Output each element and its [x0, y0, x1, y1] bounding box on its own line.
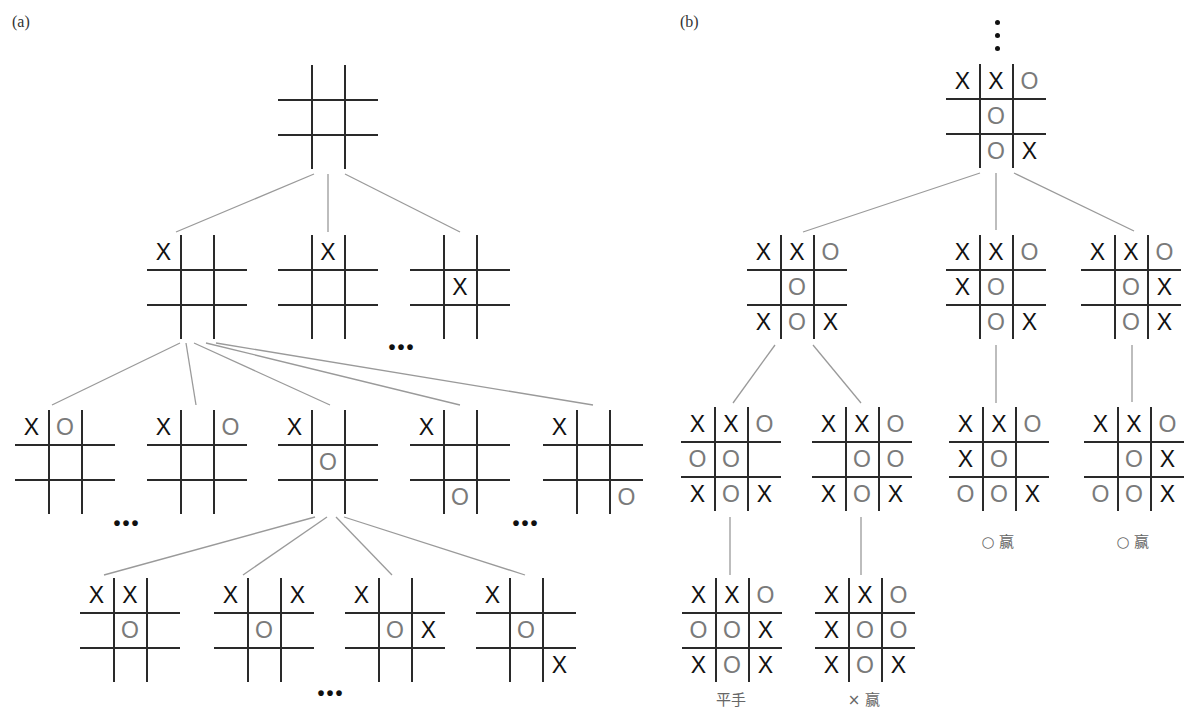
o-mark-icon: O — [980, 134, 1013, 168]
tree-edge — [345, 174, 460, 232]
o-mark-icon: O — [849, 648, 882, 682]
empty-cell — [345, 100, 378, 134]
empty-cell — [477, 305, 510, 339]
x-mark-icon: X — [814, 305, 847, 339]
x-mark-icon: X — [747, 305, 780, 339]
empty-cell — [477, 445, 510, 479]
empty-cell — [281, 613, 314, 647]
x-mark-icon: X — [281, 578, 314, 612]
x-mark-icon: X — [749, 613, 782, 647]
tree-edge — [1014, 173, 1134, 231]
x-mark-icon: X — [1013, 134, 1046, 168]
x-mark-icon: X — [476, 578, 509, 612]
tree-edge — [206, 343, 460, 405]
empty-cell — [214, 445, 247, 479]
tree-edge — [194, 343, 330, 405]
o-mark-icon: O — [781, 305, 814, 339]
tic-tac-toe-board: XO — [410, 410, 510, 514]
o-mark-icon: O — [1148, 235, 1181, 269]
empty-cell — [510, 578, 543, 612]
tic-tac-toe-board: XXOXOOOX — [949, 407, 1049, 511]
empty-cell — [748, 442, 781, 476]
tic-tac-toe-board: XXOOXOX — [1081, 235, 1181, 339]
x-mark-icon: X — [15, 410, 48, 444]
tic-tac-toe-board: XXOXOOX — [946, 235, 1046, 339]
empty-cell — [814, 270, 847, 304]
x-mark-icon: X — [312, 235, 345, 269]
tic-tac-toe-board: XO — [278, 410, 378, 514]
empty-cell — [747, 270, 780, 304]
o-mark-icon: O — [716, 613, 749, 647]
empty-cell — [410, 305, 443, 339]
empty-cell — [312, 100, 345, 134]
tic-tac-toe-board: XXOXOOXOX — [815, 578, 915, 682]
empty-cell — [1081, 305, 1114, 339]
empty-cell — [412, 648, 445, 682]
o-mark-icon: O — [1013, 235, 1046, 269]
empty-cell — [476, 648, 509, 682]
empty-cell — [278, 135, 311, 169]
x-mark-icon: X — [715, 407, 748, 441]
o-mark-icon: O — [980, 99, 1013, 133]
o-mark-icon: O — [879, 442, 912, 476]
x-mark-icon: X — [444, 270, 477, 304]
game-tree-figure: (a)(b) XXXXOXOXOXOXOXXOXXOXOXXOXXXOOOXXX… — [0, 0, 1190, 715]
empty-cell — [345, 270, 378, 304]
o-mark-icon: O — [510, 613, 543, 647]
empty-cell — [15, 480, 48, 514]
empty-cell — [312, 305, 345, 339]
empty-cell — [248, 648, 281, 682]
empty-cell — [147, 305, 180, 339]
empty-cell — [80, 613, 113, 647]
empty-cell — [812, 442, 845, 476]
o-mark-icon: O — [1151, 407, 1184, 441]
x-mark-icon: X — [1148, 305, 1181, 339]
x-mark-icon: X — [815, 613, 848, 647]
empty-cell — [214, 648, 247, 682]
empty-cell — [214, 235, 247, 269]
outcome-label: 平手 — [716, 688, 746, 709]
tic-tac-toe-board: XXO — [80, 578, 180, 682]
empty-cell — [312, 135, 345, 169]
tic-tac-toe-board — [278, 65, 378, 169]
x-mark-icon: X — [1084, 407, 1117, 441]
ellipsis-icon: ••• — [317, 682, 344, 705]
empty-cell — [577, 480, 610, 514]
empty-cell — [345, 648, 378, 682]
empty-cell — [1084, 442, 1117, 476]
x-mark-icon: X — [278, 410, 311, 444]
o-mark-icon: O — [949, 477, 982, 511]
tic-tac-toe-board: XXOOOXOX — [681, 407, 781, 511]
o-mark-icon: O — [983, 442, 1016, 476]
x-mark-icon: X — [345, 578, 378, 612]
o-mark-icon: O — [814, 235, 847, 269]
outcome-label: × 赢 — [848, 688, 880, 709]
o-mark-icon: O — [1084, 477, 1117, 511]
x-mark-icon: X — [949, 407, 982, 441]
tic-tac-toe-board: X — [147, 235, 247, 339]
empty-cell — [345, 445, 378, 479]
empty-cell — [946, 99, 979, 133]
x-mark-icon: X — [812, 407, 845, 441]
tic-tac-toe-board: XOX — [476, 578, 576, 682]
x-mark-icon: X — [1081, 235, 1114, 269]
empty-cell — [610, 410, 643, 444]
x-mark-icon: X — [946, 270, 979, 304]
tic-tac-toe-board: XXO — [214, 578, 314, 682]
x-mark-icon: X — [147, 235, 180, 269]
empty-cell — [345, 410, 378, 444]
empty-cell — [577, 445, 610, 479]
x-mark-icon: X — [781, 235, 814, 269]
empty-cell — [543, 613, 576, 647]
empty-cell — [510, 648, 543, 682]
empty-cell — [345, 305, 378, 339]
empty-cell — [278, 480, 311, 514]
ellipsis-icon: ••• — [512, 512, 539, 535]
o-mark-icon: O — [682, 613, 715, 647]
x-mark-icon: X — [412, 613, 445, 647]
empty-cell — [477, 235, 510, 269]
o-mark-icon: O — [1016, 407, 1049, 441]
empty-cell — [410, 270, 443, 304]
empty-cell — [147, 648, 180, 682]
empty-cell — [444, 410, 477, 444]
